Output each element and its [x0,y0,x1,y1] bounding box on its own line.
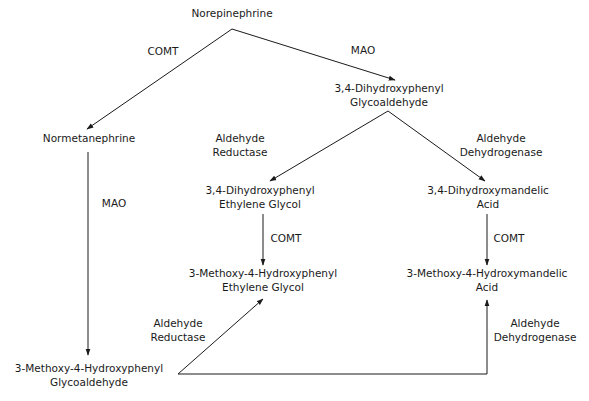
enzyme-label-comt-top: COMT [147,44,178,58]
enzyme-label-comt-mid: COMT [270,231,301,245]
enzyme-label-mao-left: MAO [102,196,126,210]
enzyme-label-comt-right: COMT [493,231,524,245]
enzyme-label-mao-top: MAO [351,43,375,57]
arrow-aldehyde-reductase-top [270,111,388,181]
node-dihydroxyphenyl-ethylene-glycol: 3,4-Dihydroxyphenyl Ethylene Glycol [205,183,314,211]
node-methoxy-hydroxymandelic-acid: 3-Methoxy-4-Hydroxymandelic Acid [407,266,568,294]
node-dihydroxymandelic-acid: 3,4-Dihydroxymandelic Acid [427,183,549,211]
arrow-aldehyde-dehydrogenase-bottom [178,300,487,374]
enzyme-label-aldehyde-reductase-top: Aldehyde Reductase [213,131,268,159]
node-norepinephrine: Norepinephrine [191,6,272,20]
node-methoxy-hydroxyphenyl-ethylene-glycol: 3-Methoxy-4-Hydroxyphenyl Ethylene Glyco… [189,266,337,294]
node-methoxy-hydroxyphenyl-glycoaldehyde: 3-Methoxy-4-Hydroxyphenyl Glycoaldehyde [15,361,163,389]
node-dihydroxyphenyl-glycoaldehyde: 3,4-Dihydroxyphenyl Glycoaldehyde [334,81,443,109]
norepinephrine-metabolism-diagram: Norepinephrine 3,4-Dihydroxyphenyl Glyco… [0,0,589,401]
enzyme-label-aldehyde-reductase-bottom: Aldehyde Reductase [151,316,206,344]
enzyme-label-aldehyde-dehydrogenase-bottom: Aldehyde Dehydrogenase [494,316,577,344]
node-normetanephrine: Normetanephrine [43,131,135,145]
enzyme-label-aldehyde-dehydrogenase-top: Aldehyde Dehydrogenase [460,131,543,159]
